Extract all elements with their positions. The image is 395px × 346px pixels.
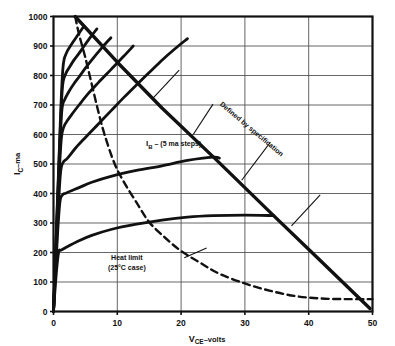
y-tick-label: 100 (33, 277, 47, 287)
y-tick-label: 300 (33, 218, 47, 228)
x-tick-label: 0 (51, 318, 56, 328)
y-tick-label: 900 (33, 41, 47, 51)
x-tick-label: 20 (176, 318, 186, 328)
heat-limit-line1: Heat limit (111, 254, 143, 261)
y-tick-label: 700 (33, 100, 47, 110)
x-tick-label: 40 (304, 318, 314, 328)
heat-limit-line2: (25°C case) (108, 264, 146, 272)
y-tick-label: 500 (33, 159, 47, 169)
figure-container: 0100200300400500600700800900100001020304… (0, 0, 395, 346)
y-tick-label: 600 (33, 130, 47, 140)
y-tick-label: 800 (33, 71, 47, 81)
transistor-safe-operating-area-chart: 0100200300400500600700800900100001020304… (0, 0, 395, 346)
x-tick-label: 50 (368, 318, 378, 328)
x-tick-label: 30 (240, 318, 250, 328)
y-tick-label: 200 (33, 248, 47, 258)
x-axis-title: VCE–volts (189, 334, 226, 346)
y-tick-label: 1000 (29, 12, 48, 22)
x-tick-label: 10 (113, 318, 123, 328)
y-tick-label: 0 (43, 307, 48, 317)
y-tick-label: 400 (33, 189, 47, 199)
